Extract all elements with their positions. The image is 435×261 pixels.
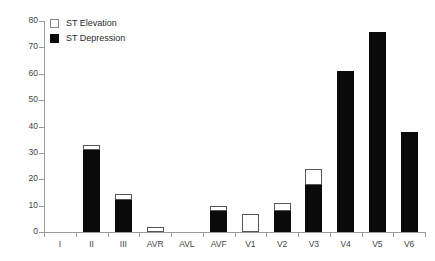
bar-segment-st-depression-v5 (369, 32, 386, 232)
bar-segment-st-depression-v4 (337, 71, 354, 232)
y-axis-tick (39, 74, 44, 75)
x-axis-tick (266, 232, 267, 237)
x-axis-label-v2: V2 (266, 240, 298, 249)
x-axis-tick (330, 232, 331, 237)
bar-group-avr (147, 227, 164, 232)
y-axis-tick (39, 153, 44, 154)
x-axis-label-v5: V5 (362, 240, 394, 249)
y-axis-tick-label-wrap: 70 (0, 47, 38, 48)
x-axis-tick (76, 232, 77, 237)
y-axis-tick-label: 70 (4, 42, 38, 51)
y-axis-tick (39, 179, 44, 180)
bar-segment-st-depression-v2 (274, 211, 291, 232)
x-axis-label-avr: AVR (139, 240, 171, 249)
bar-segment-st-elevation-v2 (274, 203, 291, 211)
x-axis-label-ii: II (76, 240, 108, 249)
chart-legend: ST Elevation ST Depression (50, 16, 125, 46)
bar-group-v6 (401, 132, 418, 232)
x-axis-tick (235, 232, 236, 237)
x-axis-tick (108, 232, 109, 237)
x-axis-label-avl: AVL (171, 240, 203, 249)
bar-segment-st-depression-ii (83, 150, 100, 232)
x-axis-tick (393, 232, 394, 237)
bar-segment-st-elevation-avr (147, 227, 164, 232)
x-axis-label-iii: III (108, 240, 140, 249)
bar-segment-st-elevation-iii (115, 194, 132, 201)
y-axis-tick (39, 127, 44, 128)
y-axis-tick-label: 30 (4, 148, 38, 157)
y-axis-tick-label: 50 (4, 95, 38, 104)
bar-group-v1 (242, 214, 259, 232)
x-axis-label-v1: V1 (235, 240, 267, 249)
bar-segment-st-depression-v3 (305, 185, 322, 232)
legend-swatch-filled-square-icon (50, 34, 59, 43)
bar-group-v3 (305, 169, 322, 232)
y-axis-tick-label: 0 (4, 227, 38, 236)
ecg-st-change-bar-chart: 01020304050607080 IIIIIIAVRAVLAVFV1V2V3V… (0, 0, 435, 261)
x-axis-label-v4: V4 (330, 240, 362, 249)
y-axis-tick-label-wrap: 0 (0, 232, 38, 233)
x-axis-tick (203, 232, 204, 237)
bar-segment-st-elevation-v1 (242, 214, 259, 232)
bar-segment-st-elevation-v3 (305, 169, 322, 185)
y-axis-tick-label: 10 (4, 201, 38, 210)
y-axis-tick-label-wrap: 10 (0, 206, 38, 207)
x-axis-label-avf: AVF (203, 240, 235, 249)
x-axis-tick (425, 232, 426, 237)
legend-swatch-open-square-icon (50, 19, 59, 28)
bar-group-iii (115, 194, 132, 232)
bar-group-v2 (274, 203, 291, 232)
legend-item-st-depression: ST Depression (50, 31, 125, 46)
x-axis-label-i: I (44, 240, 76, 249)
y-axis-tick-label-wrap: 30 (0, 153, 38, 154)
bar-segment-st-depression-avf (210, 211, 227, 232)
bar-segment-st-depression-v6 (401, 132, 418, 232)
x-axis-tick (298, 232, 299, 237)
legend-item-st-elevation: ST Elevation (50, 16, 125, 31)
y-axis-tick-label: 60 (4, 69, 38, 78)
y-axis-tick (39, 100, 44, 101)
x-axis-tick (139, 232, 140, 237)
y-axis-tick-label-wrap: 20 (0, 179, 38, 180)
x-axis-label-v3: V3 (298, 240, 330, 249)
y-axis-tick-label: 80 (4, 16, 38, 25)
y-axis-tick-label: 20 (4, 174, 38, 183)
bar-segment-st-depression-iii (115, 200, 132, 232)
bar-group-v5 (369, 32, 386, 232)
x-axis-tick (44, 232, 45, 237)
x-axis-label-v6: V6 (393, 240, 425, 249)
y-axis-tick (39, 47, 44, 48)
y-axis-line (44, 21, 45, 233)
y-axis-tick (39, 206, 44, 207)
y-axis-tick (39, 21, 44, 22)
bar-group-v4 (337, 71, 354, 232)
legend-label-st-elevation: ST Elevation (66, 19, 117, 28)
y-axis-tick-label-wrap: 60 (0, 74, 38, 75)
x-axis-tick (362, 232, 363, 237)
y-axis-tick-label-wrap: 40 (0, 127, 38, 128)
y-axis-tick-label-wrap: 80 (0, 21, 38, 22)
plot-area: 01020304050607080 IIIIIIAVRAVLAVFV1V2V3V… (0, 0, 435, 261)
bar-group-ii (83, 145, 100, 232)
x-axis-tick (171, 232, 172, 237)
bar-group-avf (210, 206, 227, 232)
legend-label-st-depression: ST Depression (66, 34, 125, 43)
y-axis-tick-label: 40 (4, 122, 38, 131)
y-axis-tick-label-wrap: 50 (0, 100, 38, 101)
